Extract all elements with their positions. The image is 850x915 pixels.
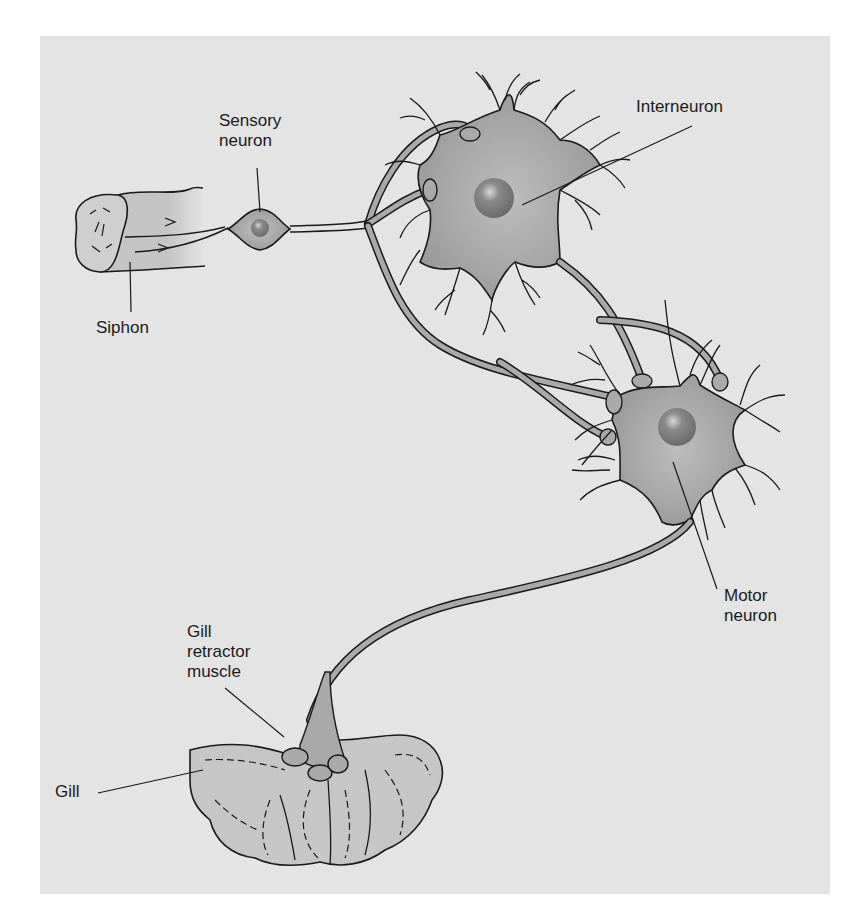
reflex-circuit-diagram (0, 0, 850, 915)
motor-axon (310, 522, 690, 720)
leader-sensory-neuron (257, 168, 260, 212)
leader-gill (98, 770, 203, 793)
label-siphon: Siphon (96, 318, 149, 338)
leader-gill-retractor-muscle (225, 688, 284, 737)
label-gill-retractor-muscle: Gill retractor muscle (187, 622, 250, 682)
label-motor-neuron: Motor neuron (724, 586, 777, 626)
label-sensory-neuron: Sensory neuron (219, 111, 281, 151)
sensory-neuron-shape (228, 209, 368, 250)
siphon-shape (75, 187, 228, 272)
interneuron-axon (560, 262, 728, 391)
label-interneuron: Interneuron (636, 97, 723, 117)
gill-shape (190, 672, 442, 865)
label-gill: Gill (55, 782, 80, 802)
